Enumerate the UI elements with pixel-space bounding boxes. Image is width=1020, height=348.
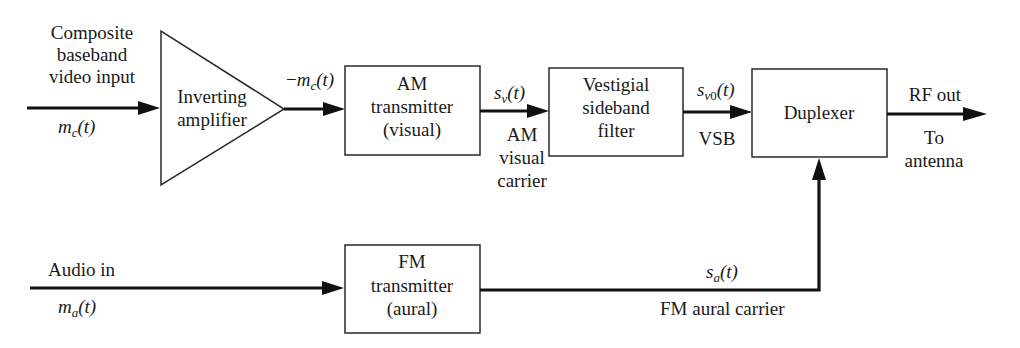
vsb-filter-block: Vestigial sideband filter — [549, 68, 683, 156]
inverted-signal-label: −mc(t) — [286, 69, 334, 93]
audio-input-label: Audio in — [48, 259, 116, 280]
svg-text:(visual): (visual) — [383, 119, 441, 141]
svg-text:filter: filter — [598, 120, 636, 141]
fm-transmitter-block: FM transmitter (aural) — [345, 245, 480, 333]
svg-text:Vestigial: Vestigial — [583, 74, 650, 95]
sv-signal-label: sv(t) — [494, 82, 525, 106]
svg-text:transmitter: transmitter — [371, 275, 454, 296]
video-input-label: Composite baseband video input — [49, 22, 136, 87]
arrow-head-icon — [322, 281, 344, 295]
am-transmitter-block: AM transmitter (visual) — [345, 66, 480, 155]
tv-transmitter-diagram: Composite baseband video input mc(t) Inv… — [0, 0, 1020, 348]
svg-text:AM: AM — [397, 73, 428, 94]
sv0-signal-label: sv0(t) — [697, 79, 735, 103]
svg-text:amplifier: amplifier — [177, 109, 247, 130]
arrow-head-icon — [963, 107, 987, 121]
svg-text:transmitter: transmitter — [371, 96, 454, 117]
svg-text:AM: AM — [507, 124, 538, 145]
to-antenna-caption: To antenna — [904, 127, 964, 171]
svg-text:To: To — [924, 127, 944, 148]
svg-text:antenna: antenna — [904, 150, 964, 171]
vsb-caption: VSB — [699, 128, 736, 149]
svg-text:visual: visual — [499, 147, 544, 168]
svg-text:(aural): (aural) — [387, 298, 438, 320]
svg-text:video input: video input — [49, 66, 136, 87]
inverting-amplifier-block: Inverting amplifier — [161, 31, 284, 185]
fm-to-duplexer-wire — [480, 180, 819, 290]
ma-signal-label: ma(t) — [58, 296, 96, 320]
arrow-head-icon — [323, 102, 345, 116]
am-visual-carrier-caption: AM visual carrier — [497, 124, 547, 191]
svg-text:sideband: sideband — [582, 97, 650, 118]
svg-text:carrier: carrier — [497, 170, 547, 191]
sa-signal-label: sa(t) — [706, 261, 738, 285]
arrow-head-icon — [527, 104, 549, 118]
arrow-head-icon — [812, 158, 826, 180]
svg-text:baseband: baseband — [57, 44, 128, 65]
svg-text:Inverting: Inverting — [177, 86, 247, 107]
svg-text:FM: FM — [398, 251, 426, 272]
duplexer-block: Duplexer — [752, 69, 887, 157]
arrow-head-icon — [138, 101, 160, 115]
fm-aural-carrier-caption: FM aural carrier — [660, 298, 785, 319]
svg-text:Composite: Composite — [51, 22, 133, 43]
mc-signal-label: mc(t) — [58, 116, 95, 140]
svg-text:Duplexer: Duplexer — [784, 102, 855, 123]
arrow-head-icon — [730, 105, 752, 119]
rf-out-label: RF out — [909, 84, 962, 105]
